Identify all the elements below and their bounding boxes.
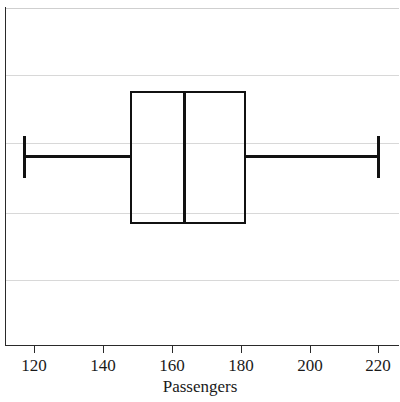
plot-background (0, 0, 400, 402)
boxplot-canvas: 120 140 160 180 200 220 Passengers (0, 0, 400, 402)
boxplot-figure: 120 140 160 180 200 220 Passengers (0, 0, 400, 402)
tick-label-120: 120 (21, 356, 47, 375)
tick-label-180: 180 (228, 356, 254, 375)
tick-label-160: 160 (159, 356, 185, 375)
tick-label-220: 220 (365, 356, 391, 375)
x-axis-title: Passengers (163, 377, 238, 396)
tick-label-140: 140 (90, 356, 116, 375)
tick-label-200: 200 (297, 356, 323, 375)
